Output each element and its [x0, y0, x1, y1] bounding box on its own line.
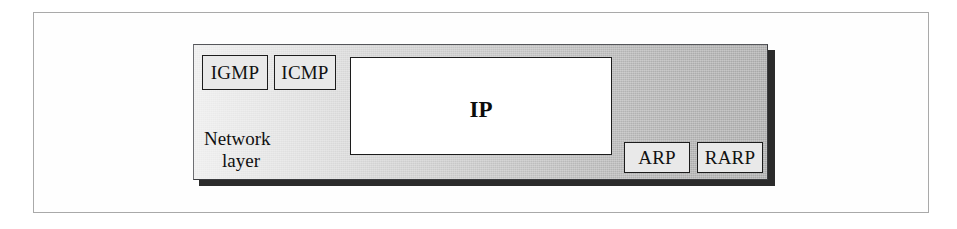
protocol-label-arp: ARP	[638, 148, 676, 167]
protocol-box-arp: ARP	[624, 142, 690, 173]
network-layer-caption-line-2: layer	[200, 150, 320, 172]
protocol-label-rarp: RARP	[705, 148, 755, 167]
network-layer-caption-line-1: Network	[200, 128, 320, 150]
protocol-label-igmp: IGMP	[211, 63, 259, 82]
figure-canvas: IGMP ICMP IP ARP RARP Network layer	[0, 0, 957, 229]
protocol-box-rarp: RARP	[697, 142, 763, 173]
protocol-label-icmp: ICMP	[281, 63, 328, 82]
protocol-box-igmp: IGMP	[202, 55, 268, 90]
protocol-box-ip: IP	[350, 57, 612, 155]
protocol-box-icmp: ICMP	[274, 55, 336, 90]
network-layer-caption: Network layer	[200, 128, 320, 172]
protocol-label-ip: IP	[351, 98, 611, 121]
